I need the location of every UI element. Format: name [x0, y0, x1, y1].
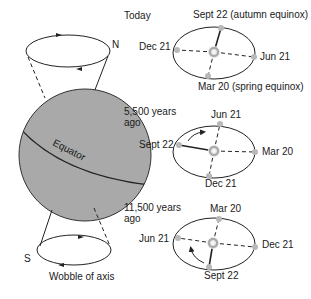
orbit-label-left: Dec 21 — [139, 41, 171, 52]
rotation-arrow-icon — [188, 132, 203, 141]
orbit-label-right: Jun 21 — [260, 51, 290, 62]
orbit-label-right: Mar 20 — [262, 146, 294, 157]
orbit-label-bottom: Sept 22 — [204, 270, 239, 281]
orbit-point-right — [252, 244, 258, 250]
orbit-title-line2: ago — [124, 117, 141, 128]
orbit-label-bottom: Mar 20 (spring equinox) — [198, 81, 304, 92]
precession-diagram: Equator N S Wobble of axis TodaySept 22 … — [0, 0, 311, 299]
orbit-panel: TodaySept 22 (autumn equinox)Dec 21Jun 2… — [124, 9, 308, 92]
orbit-label-top: Sept 22 (autumn equinox) — [193, 9, 308, 20]
north-axis-dashed — [28, 57, 45, 98]
orbit-point-right — [251, 54, 257, 60]
orbit-point-bottom — [205, 73, 211, 79]
orbit-label-left: Sept 22 — [139, 139, 174, 150]
north-wobble-circle — [26, 35, 110, 67]
orbit-point-top — [217, 121, 223, 127]
axis-line-dashed — [214, 52, 254, 57]
rotation-arrow-icon — [191, 249, 204, 263]
orbit-label-bottom: Dec 21 — [205, 178, 237, 189]
orbit-point-left — [176, 142, 182, 148]
orbit-label-left: Jun 21 — [139, 233, 169, 244]
orbit-point-top — [218, 25, 224, 31]
orbit-point-left — [174, 47, 180, 53]
wobble-caption: Wobble of axis — [49, 271, 114, 282]
axis-line-dashed — [214, 151, 255, 152]
orbit-point-right — [252, 149, 258, 155]
orbit-title: 11,500 years — [124, 202, 181, 213]
north-label: N — [112, 39, 119, 50]
orbit-panel: 11,500 yearsagoMar 20Jun 21Dec 21Sept 22 — [124, 202, 294, 281]
north-arrow-icon — [76, 67, 82, 71]
orbit-point-left — [175, 235, 181, 241]
south-wobble-circle — [37, 235, 111, 265]
orbit-panels: TodaySept 22 (autumn equinox)Dec 21Jun 2… — [124, 9, 308, 281]
orbit-panel: 5,500 yearsagoJun 21Sept 22Mar 20Dec 21 — [124, 106, 294, 189]
orbit-point-top — [216, 216, 222, 222]
axis-line-dashed — [213, 243, 255, 247]
north-arrow-icon — [56, 33, 62, 37]
south-label: S — [24, 253, 31, 264]
orbit-title-line2: ago — [124, 213, 141, 224]
orbit-label-top: Jun 21 — [211, 109, 241, 120]
orbit-label-top: Mar 20 — [210, 203, 242, 214]
orbit-title: Today — [124, 10, 151, 21]
orbit-label-right: Dec 21 — [262, 239, 294, 250]
orbit-title: 5,500 years — [124, 106, 176, 117]
